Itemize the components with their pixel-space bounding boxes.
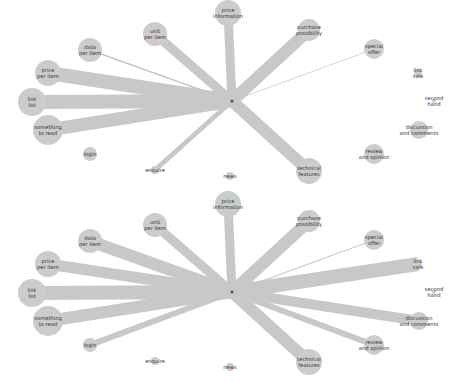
- edge-purchase-possibility: [232, 30, 309, 101]
- node-label: to read: [39, 321, 58, 327]
- node-label: enquire: [145, 167, 165, 174]
- network-diagram: priceinformationunitper itempurchaseposs…: [0, 0, 461, 382]
- node-label: information: [213, 13, 243, 19]
- node-label: news: [223, 364, 237, 370]
- node-label: list: [28, 293, 36, 299]
- center-node[interactable]: [230, 290, 233, 293]
- node-second-hand[interactable]: secondhand: [425, 95, 444, 107]
- node-label: per item: [144, 34, 166, 41]
- node-label: information: [213, 204, 243, 210]
- node-label: features: [298, 362, 320, 368]
- node-label: per item: [144, 225, 166, 232]
- node-review-and-opinion[interactable]: reviewand opinion: [359, 144, 390, 164]
- node-enquire[interactable]: enquire: [145, 357, 165, 365]
- edge-price-information: [228, 204, 232, 292]
- node-label: enquire: [145, 358, 165, 365]
- node-login[interactable]: login: [83, 147, 97, 161]
- diagram-panel-top: priceinformationunitper itempurchaseposs…: [18, 0, 443, 184]
- node-news[interactable]: news: [223, 363, 237, 371]
- node-label: news: [223, 173, 237, 179]
- node-label: per item: [79, 241, 101, 248]
- node-special-offer[interactable]: specialoffer: [364, 39, 384, 59]
- node-unit-per-item[interactable]: unitper item: [143, 22, 167, 46]
- node-label: per item: [37, 264, 59, 271]
- node-second-hand[interactable]: secondhand: [425, 286, 444, 298]
- node-label: and opinion: [359, 154, 390, 161]
- node-label: sale: [413, 73, 424, 79]
- node-technical-features[interactable]: technicalfeatures: [296, 349, 322, 375]
- node-label: features: [298, 171, 320, 177]
- node-label: login: [84, 342, 97, 349]
- node-label: hand: [427, 292, 440, 298]
- node-label: per item: [37, 73, 59, 80]
- node-technical-features[interactable]: technicalfeatures: [296, 158, 322, 184]
- node-label: offer: [368, 240, 381, 246]
- node-discussion-and-comments[interactable]: discussionand comments: [400, 312, 439, 330]
- node-label: to read: [39, 130, 58, 136]
- node-label: sale: [413, 264, 424, 270]
- node-label: and opinion: [359, 345, 390, 352]
- node-label: login: [84, 151, 97, 158]
- node-something-to-read[interactable]: somethingto read: [33, 306, 63, 336]
- node-link-sale[interactable]: linksale: [413, 67, 424, 79]
- edge-price-information: [228, 13, 232, 101]
- edge-technical-features: [232, 101, 309, 171]
- node-label: possibility: [296, 221, 322, 228]
- node-something-to-read[interactable]: somethingto read: [33, 115, 63, 145]
- node-data-per-item[interactable]: dataper item: [78, 229, 102, 253]
- node-label: offer: [368, 49, 381, 55]
- node-label: per item: [79, 50, 101, 57]
- diagram-panel-bottom: priceinformationunitper itempurchaseposs…: [18, 191, 443, 375]
- node-price-per-item[interactable]: priceper item: [35, 60, 61, 86]
- node-link-list[interactable]: linklist: [18, 279, 46, 307]
- node-price-information[interactable]: priceinformation: [213, 0, 243, 26]
- node-enquire[interactable]: enquire: [145, 166, 165, 174]
- center-node[interactable]: [230, 99, 233, 102]
- node-label: hand: [427, 101, 440, 107]
- node-label: list: [28, 102, 36, 108]
- node-login[interactable]: login: [83, 338, 97, 352]
- node-price-per-item[interactable]: priceper item: [35, 251, 61, 277]
- node-special-offer[interactable]: specialoffer: [364, 230, 384, 250]
- node-link-sale[interactable]: linksale: [413, 258, 424, 270]
- node-data-per-item[interactable]: dataper item: [78, 38, 102, 62]
- node-price-information[interactable]: priceinformation: [213, 191, 243, 217]
- node-label: possibility: [296, 30, 322, 37]
- node-discussion-and-comments[interactable]: discussionand comments: [400, 121, 439, 139]
- node-link-list[interactable]: linklist: [18, 88, 46, 116]
- node-unit-per-item[interactable]: unitper item: [143, 213, 167, 237]
- node-label: and comments: [400, 321, 439, 327]
- node-news[interactable]: news: [223, 172, 237, 180]
- node-label: and comments: [400, 130, 439, 136]
